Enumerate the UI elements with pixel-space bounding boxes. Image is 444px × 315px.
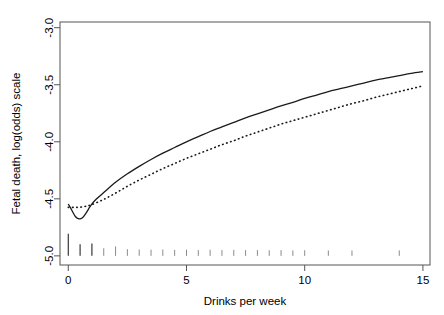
y-tick-label: -3.5 xyxy=(43,75,55,95)
plot-frame xyxy=(60,22,430,265)
chart-svg: 051015 -3.0-3.5-4.0-4.5-5.0 Drinks per w… xyxy=(0,0,444,315)
x-axis-title: Drinks per week xyxy=(204,295,287,307)
data-series xyxy=(68,72,423,219)
y-axis: -3.0-3.5-4.0-4.5-5.0 xyxy=(43,18,60,266)
x-tick-label: 5 xyxy=(183,274,189,286)
x-tick-label: 15 xyxy=(417,274,430,286)
y-tick-label: -4.5 xyxy=(43,189,55,209)
y-tick-label: -4.0 xyxy=(43,132,55,152)
x-tick-label: 0 xyxy=(65,274,71,286)
x-tick-label: 10 xyxy=(298,274,311,286)
series-line xyxy=(68,72,423,219)
chart-container: 051015 -3.0-3.5-4.0-4.5-5.0 Drinks per w… xyxy=(0,0,444,315)
data-rug xyxy=(68,234,399,256)
y-tick-label: -3.0 xyxy=(43,18,55,38)
y-tick-label: -5.0 xyxy=(43,246,55,266)
x-axis: 051015 xyxy=(65,265,429,286)
y-axis-title: Fetal death, log(odds) scale xyxy=(10,73,22,215)
series-line xyxy=(68,86,423,208)
